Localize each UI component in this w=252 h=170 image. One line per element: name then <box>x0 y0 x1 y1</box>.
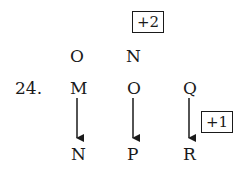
letter-bottom-3: R <box>183 146 196 163</box>
letter-bottom-1: N <box>71 146 86 163</box>
arrows-layer <box>0 0 252 170</box>
letter-bottom-2: P <box>127 146 138 163</box>
